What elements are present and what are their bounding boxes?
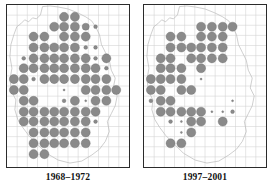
map-panel-right	[143, 4, 267, 168]
map-plot-left	[7, 5, 129, 167]
map-plot-right	[144, 5, 266, 167]
distribution-map-figure: 1968–1972 1997–2001	[0, 0, 277, 194]
panel-caption-right: 1997–2001	[143, 172, 267, 182]
panel-caption-left: 1968–1972	[6, 172, 130, 182]
record-dots-left	[7, 5, 129, 167]
map-panel-left	[6, 4, 130, 168]
record-dots-right	[144, 5, 266, 167]
